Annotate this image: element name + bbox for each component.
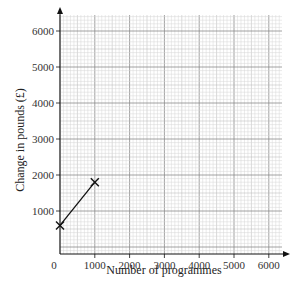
y-axis-label: Change in pounds (£) — [13, 88, 27, 192]
x-axis-arrow-icon — [283, 251, 290, 257]
x-axis-label: Number of programmes — [106, 263, 222, 277]
y-tick-label: 1000 — [32, 205, 55, 217]
y-tick-label: 5000 — [32, 61, 55, 73]
x-tick-label: 0 — [51, 259, 57, 271]
graph-paper-grid — [60, 15, 282, 254]
y-axis-ticks: 100020003000400050006000 — [32, 25, 60, 217]
x-tick-label: 1000 — [84, 259, 107, 271]
y-tick-label: 3000 — [32, 133, 55, 145]
y-tick-label: 2000 — [32, 169, 55, 181]
y-tick-label: 4000 — [32, 97, 55, 109]
y-tick-label: 6000 — [32, 25, 55, 37]
chart: 0100020003000400050006000 10002000300040… — [0, 0, 296, 297]
x-tick-label: 5000 — [223, 259, 246, 271]
x-tick-label: 6000 — [258, 259, 281, 271]
y-axis-arrow-icon — [57, 7, 63, 14]
